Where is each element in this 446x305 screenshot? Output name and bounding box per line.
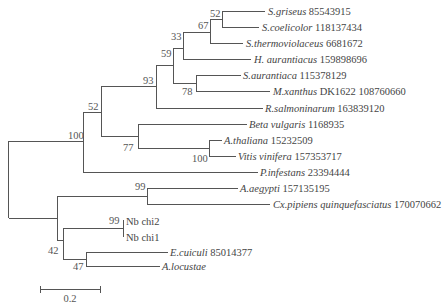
- taxon-label-sgriseus: S.griseus 85543915: [268, 6, 351, 17]
- taxon-labels: S.griseus 85543915 S.coelicolor 11813743…: [126, 6, 441, 272]
- bootstrap-value: 78: [182, 86, 193, 97]
- taxon-label-sthermoviolaceus: S.thermoviolaceus 6681672: [246, 38, 363, 49]
- taxon-label-mxanthus: M.xanthus DK1622 108760660: [272, 86, 406, 97]
- taxon-label-nbchi2: Nb chi2: [126, 216, 160, 227]
- bootstrap-value: 33: [171, 31, 182, 42]
- taxon-label-scoelicolor: S.coelicolor 118137434: [262, 22, 363, 33]
- taxon-label-cxpipiens: Cx.pipiens quinquefasciatus 170070662: [273, 199, 441, 210]
- bootstrap-value: 47: [73, 261, 84, 272]
- bootstrap-value: 67: [198, 20, 209, 31]
- bootstrap-value: 99: [135, 181, 146, 192]
- bootstrap-value: 52: [210, 8, 221, 19]
- taxon-label-aaegypti: A.aegypti 157135195: [239, 183, 330, 194]
- taxon-label-haurantiacus: H. aurantiacus 159898696: [253, 54, 367, 65]
- taxon-label-nbchi1: Nb chi1: [126, 232, 160, 243]
- taxon-label-rsalmoninarum: R.salmoninarum 163839120: [264, 103, 385, 114]
- taxon-label-pinfestans: P.infestans 23394444: [259, 167, 350, 178]
- bootstrap-value: 93: [143, 75, 154, 86]
- scale-bar: 0.2: [40, 286, 101, 304]
- taxon-label-alocustae: A.locustae: [161, 261, 206, 272]
- taxon-label-athaliana: A.thaliana 15232509: [223, 135, 313, 146]
- taxon-label-vitis-vinifera: Vitis vinifera 157353717: [238, 151, 342, 162]
- bootstrap-value: 100: [192, 153, 208, 164]
- bootstrap-value: 77: [123, 142, 134, 153]
- bootstrap-value: 99: [109, 215, 120, 226]
- taxon-label-saurantiaca: S.aurantiaca 115378129: [243, 70, 346, 81]
- taxon-label-beta-vulgaris: Beta vulgaris 1168935: [249, 119, 344, 130]
- scale-bar-label: 0.2: [63, 293, 76, 304]
- taxon-label-ecuiculi: E.cuiculi 85014377: [169, 247, 252, 258]
- bootstrap-value: 100: [68, 130, 84, 141]
- bootstrap-value: 52: [88, 101, 99, 112]
- bootstrap-value: 42: [48, 245, 59, 256]
- bootstrap-value: 59: [161, 48, 172, 59]
- phylogenetic-tree: S.griseus 85543915 S.coelicolor 11813743…: [0, 0, 446, 305]
